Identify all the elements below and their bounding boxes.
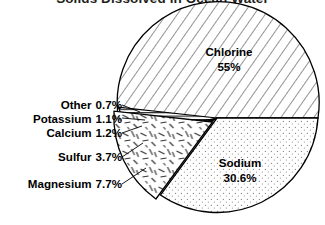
leader-label-calcium-name: Calcium (46, 126, 91, 139)
leader-label-calcium-pct: 1.2% (96, 126, 122, 139)
leader-label-potassium-pct: 1.1% (96, 112, 122, 125)
slice-label-sodium-pct: 30.6% (224, 171, 257, 184)
slice-label-chlorine-pct: 55% (217, 60, 240, 73)
leader-label-calcium: Calcium1.2% (0, 126, 122, 139)
leader-label-sulfur: Sulfur3.7% (0, 150, 122, 163)
leader-label-magnesium-name: Magnesium (28, 177, 92, 190)
leader-label-other-name: Other (61, 98, 92, 111)
leader-label-magnesium: Magnesium7.7% (0, 177, 122, 190)
slice-label-chlorine-name: Chlorine (205, 45, 253, 58)
leader-label-potassium-name: Potassium (33, 112, 92, 125)
leader-label-sulfur-pct: 3.7% (96, 150, 122, 163)
leader-label-other-pct: 0.7% (96, 98, 122, 111)
chart-root: Solids Dissolved in Ocean Water (0, 0, 325, 225)
leader-label-potassium: Potassium1.1% (0, 112, 122, 125)
leader-label-sulfur-name: Sulfur (58, 150, 92, 163)
leader-label-other: Other0.7% (0, 98, 122, 111)
leader-label-magnesium-pct: 7.7% (96, 177, 122, 190)
slice-label-sodium-name: Sodium (219, 156, 262, 169)
